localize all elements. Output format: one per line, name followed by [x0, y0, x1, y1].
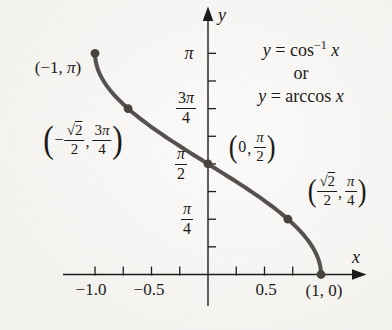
point-label-sqrt2-2-pi-4: (√22,π4): [307, 174, 367, 208]
open-paren: (: [43, 123, 53, 156]
curve-point-dot: [284, 215, 293, 224]
radical-icon: √: [67, 123, 75, 138]
radical-icon: √: [319, 174, 327, 189]
point-label-neg-sqrt2-2-3pi-4: (−√22,3π4): [42, 123, 123, 157]
equation-line-3: y = arccos x: [258, 85, 344, 108]
x-tick-label-neg1: −1.0: [76, 281, 107, 298]
equation-line-2: or: [258, 62, 344, 85]
x-axis-label: x: [352, 248, 360, 266]
y-tick-label-pi-2: π2: [175, 146, 187, 182]
curve-point-dot: [124, 104, 133, 113]
close-paren: ): [112, 123, 122, 156]
close-paren: ): [267, 133, 276, 161]
equation-line-1: y = cos−1 x: [258, 34, 344, 62]
point-label-neg1-pi: (−1, π): [35, 59, 81, 76]
x-axis-arrow-icon: [352, 269, 367, 280]
y-axis-label: y: [218, 6, 226, 24]
y-tick-label-pi-4: π4: [181, 201, 193, 237]
x-tick-label-neg05: −0.5: [134, 281, 165, 298]
y-tick-label-3pi-4: 3π4: [176, 90, 196, 126]
equation-block: y = cos−1 x or y = arccos x: [258, 34, 344, 108]
curve-point-dot: [317, 270, 326, 279]
curve-point-dot: [91, 49, 100, 58]
curve-point-dot: [204, 160, 213, 169]
open-paren: (: [229, 133, 238, 161]
figure: y x y = cos−1 x or y = arccos x π 3π4 π2…: [0, 0, 392, 330]
x-tick-label-05: 0.5: [255, 281, 276, 298]
y-axis-arrow-icon: [203, 7, 214, 22]
point-label-0-pi-2: (0,π2): [228, 130, 276, 164]
open-paren: (: [308, 177, 317, 205]
y-tick-label-pi: π: [184, 44, 193, 62]
point-label-1-0: (1, 0): [306, 282, 343, 299]
close-paren: ): [357, 177, 366, 205]
